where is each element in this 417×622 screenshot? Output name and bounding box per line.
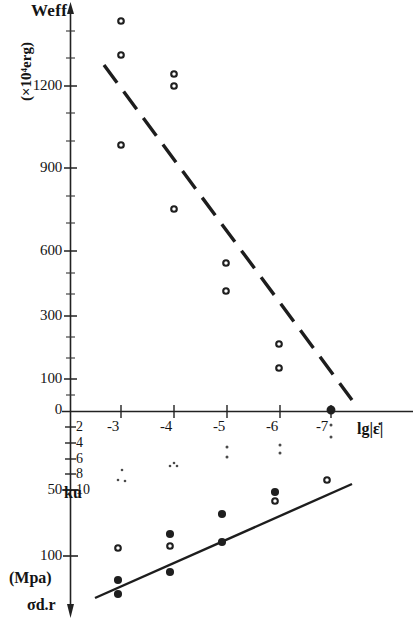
- x-tick-label: -5: [213, 419, 225, 434]
- y-axis-arrowhead: [67, 2, 74, 14]
- x-axis-title: lg|ε̇|: [357, 421, 383, 437]
- y-tick-label: 100: [16, 371, 62, 386]
- upper-dashed-trend-line: [104, 65, 352, 400]
- data-point: [115, 545, 121, 551]
- x-tick-label: -6: [266, 419, 278, 434]
- secondary-axis-title: ku: [64, 485, 82, 501]
- secondary-tick-label: 2: [76, 420, 83, 434]
- secondary-tick-label: 4: [76, 436, 83, 450]
- data-point: [171, 206, 177, 212]
- data-point: [167, 543, 173, 549]
- y-tick-label: 1200: [16, 78, 62, 93]
- data-point: [328, 407, 335, 414]
- data-point: [115, 577, 121, 583]
- data-point: [324, 477, 330, 483]
- lower-data-points: [115, 477, 330, 597]
- y-tick-label: 300: [16, 308, 62, 323]
- upper-panel: [62, 2, 413, 418]
- y-tick-label: 0: [16, 402, 62, 417]
- data-point: [167, 531, 173, 537]
- data-point: [118, 52, 124, 58]
- data-point: [272, 498, 278, 504]
- upper-data-points: [118, 18, 334, 413]
- data-point: [223, 260, 229, 266]
- data-point: [219, 511, 225, 517]
- x-tick-label: -3: [107, 419, 119, 434]
- data-point: [118, 142, 124, 148]
- data-point: [167, 569, 173, 575]
- y-axis-unit-label: (×10⁴erg): [19, 24, 34, 120]
- data-point: [272, 489, 278, 495]
- secondary-tick-label: 6: [76, 452, 83, 466]
- y-tick-label: 900: [16, 160, 62, 175]
- secondary-tick-label: 8: [76, 467, 83, 481]
- data-point: [171, 83, 177, 89]
- x-tick-label: -7: [316, 419, 328, 434]
- bottom-axis-title: σd.r: [27, 597, 56, 613]
- bottom-unit-label: (Mpa): [9, 570, 52, 586]
- data-point: [276, 365, 282, 371]
- data-point: [118, 18, 124, 24]
- data-point: [115, 591, 121, 597]
- data-point: [276, 341, 282, 347]
- y-tick-label: 600: [16, 243, 62, 258]
- lower-axis-arrowhead: [67, 604, 74, 618]
- plot-canvas: [0, 0, 417, 622]
- scientific-figure: Weff (×10⁴erg) 1200 900 600 300 100 0 -3…: [0, 0, 417, 622]
- x-tick-label: -4: [160, 419, 172, 434]
- data-point: [171, 71, 177, 77]
- data-point: [219, 539, 225, 545]
- page-title: Weff: [31, 2, 67, 19]
- data-point: [223, 288, 229, 294]
- lower-y-tick-label: 50: [16, 482, 62, 497]
- lower-y-tick-label: 100: [16, 548, 62, 563]
- lower-panel: [62, 412, 352, 618]
